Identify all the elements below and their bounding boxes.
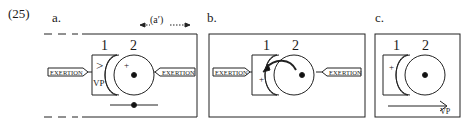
c-arrow-label: VP bbox=[440, 107, 450, 116]
c-block-2-number: 2 bbox=[422, 38, 429, 54]
panel-c bbox=[375, 34, 460, 117]
a-block-2-number: 2 bbox=[130, 38, 137, 54]
force-dynamics-diagram: EXERTION EXERTION EXERTION EXERTION bbox=[0, 0, 465, 128]
right-exertion-b: EXERTION bbox=[329, 69, 362, 76]
right-exertion-a: EXERTION bbox=[162, 69, 195, 76]
c-block-1-symbol: + bbox=[389, 62, 394, 72]
a-block-1-symbol: > bbox=[96, 58, 103, 74]
a-block-1-sub: VP bbox=[93, 78, 105, 88]
a-block-1-number: 1 bbox=[101, 38, 108, 54]
a-block-2-symbol: + bbox=[124, 60, 129, 70]
b-block-1-number: 1 bbox=[263, 38, 270, 54]
left-exertion-a: EXERTION bbox=[50, 69, 83, 76]
left-exertion-b: EXERTION bbox=[215, 69, 248, 76]
b-block-1-symbol: + bbox=[259, 74, 264, 84]
b-block-2-number: 2 bbox=[292, 38, 299, 54]
c-block-1-number: 1 bbox=[393, 38, 400, 54]
